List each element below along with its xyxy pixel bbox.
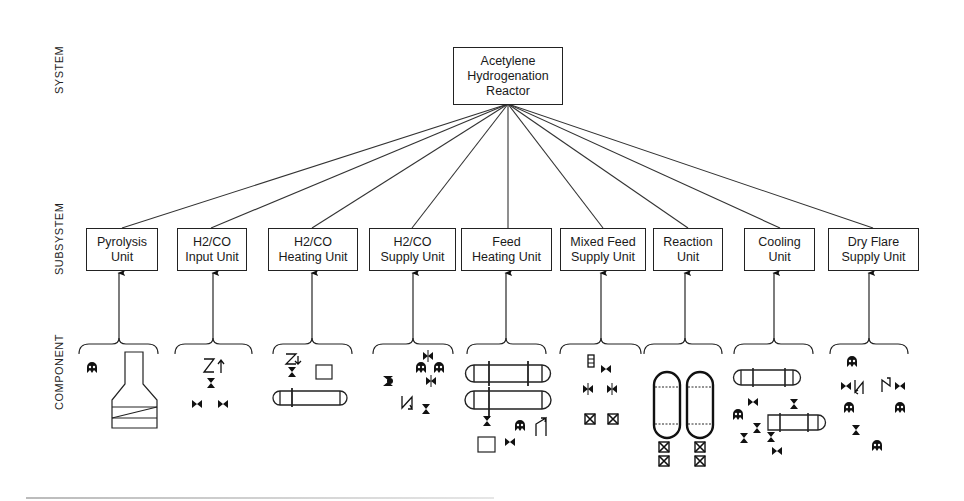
system-box-line3: Reactor (486, 84, 530, 99)
subsystem-box-feed-heating-unit[interactable]: Feed Heating Unit (461, 228, 552, 271)
subsystem-box-reaction-unit[interactable]: Reaction Unit (653, 228, 723, 271)
check-valve-icon (536, 418, 546, 436)
gate-valve-icon (748, 398, 758, 406)
control-valve-icon (423, 350, 433, 362)
subsystem-label-line2: Supply Unit (842, 250, 906, 265)
gate-valve-icon (767, 432, 775, 442)
subsystem-label-line1: H2/CO (193, 235, 231, 250)
control-valve-icon (607, 383, 617, 395)
gate-valve-icon (207, 378, 215, 388)
subsystem-label-line1: H2/CO (393, 235, 431, 250)
component-group-pyrolysis (87, 352, 157, 428)
pump-icon (434, 362, 444, 373)
footer-divider (26, 497, 494, 499)
component-group-cooling (733, 368, 826, 455)
instrument-box-icon (478, 437, 495, 452)
pump-icon (895, 402, 905, 413)
component-braces (79, 338, 908, 354)
subsystem-box-h2co-heating-unit[interactable]: H2/CO Heating Unit (268, 228, 358, 271)
gate-valve-icon (790, 399, 798, 409)
subsystem-box-h2co-input-unit[interactable]: H2/CO Input Unit (177, 228, 247, 271)
control-valve-icon (426, 375, 436, 387)
component-arrows (119, 273, 869, 340)
gate-valve-icon (841, 382, 851, 390)
subsystem-box-h2co-supply-unit[interactable]: H2/CO Supply Unit (369, 228, 456, 271)
component-group-mixed-feed (583, 355, 618, 424)
gate-valve-icon (483, 416, 491, 426)
system-box-line2: Hydrogenation (467, 69, 548, 84)
subsystem-label-line2: Unit (768, 250, 790, 265)
relief-valve-icon (659, 442, 669, 452)
component-group-feed-heating (465, 361, 551, 452)
check-valve-icon (855, 380, 863, 394)
gate-valve-icon (422, 404, 430, 414)
pump-icon (872, 440, 882, 451)
pump-icon (847, 356, 857, 367)
component-group-h2co-heating (273, 354, 347, 407)
pump-icon (733, 409, 743, 420)
gate-valve-icon (601, 365, 611, 373)
check-valve-icon (286, 354, 301, 364)
heat-exchanger-icon (273, 388, 347, 407)
subsystem-label-line2: Heating Unit (279, 250, 348, 265)
system-box-line1: Acetylene (481, 54, 536, 69)
pump-icon (515, 420, 525, 431)
subsystem-box-dry-flare-supply-unit[interactable]: Dry Flare Supply Unit (828, 228, 919, 271)
heat-exchanger-icon (768, 413, 826, 432)
subsystem-label-line1: Feed (492, 235, 521, 250)
flow-meter-icon (588, 355, 594, 367)
component-group-reaction (654, 372, 713, 466)
pump-icon (416, 362, 426, 373)
relief-valve-icon (659, 456, 669, 466)
system-box-acetylene-hydrogenation-reactor[interactable]: Acetylene Hydrogenation Reactor (453, 47, 563, 105)
subsystem-label-line2: Unit (677, 250, 699, 265)
subsystem-label-line1: Mixed Feed (570, 235, 635, 250)
component-group-h2co-supply (383, 350, 444, 414)
reactor-vessel-icon (687, 372, 713, 438)
subsystem-label-line2: Heating Unit (472, 250, 541, 265)
check-valve-icon (882, 378, 890, 392)
pump-icon (87, 362, 97, 373)
furnace-icon (112, 352, 157, 428)
system-connectors (122, 104, 873, 228)
relief-valve-icon (608, 414, 618, 424)
subsystem-label-line2: Supply Unit (381, 250, 445, 265)
subsystem-label-line1: H2/CO (294, 235, 332, 250)
gate-valve-icon (192, 400, 202, 408)
subsystem-label-line1: Cooling (758, 235, 800, 250)
gate-valve-icon (772, 447, 782, 455)
relief-valve-icon (585, 414, 595, 424)
gate-valve-icon (740, 433, 748, 443)
subsystem-label-line1: Pyrolysis (97, 235, 147, 250)
subsystem-box-pyrolysis-unit[interactable]: Pyrolysis Unit (86, 228, 158, 271)
subsystem-box-mixed-feed-supply-unit[interactable]: Mixed Feed Supply Unit (560, 228, 646, 271)
subsystem-label-line1: Reaction (663, 235, 712, 250)
gate-valve-icon (753, 423, 761, 433)
subsystem-label-line2: Input Unit (185, 250, 239, 265)
pump-icon (844, 402, 854, 413)
reactor-vessel-icon (654, 372, 680, 438)
check-valve-icon (402, 396, 412, 409)
instrument-box-icon (316, 365, 332, 379)
gate-valve-icon (288, 367, 296, 377)
heat-exchanger-icon (465, 387, 551, 418)
relief-valve-icon (695, 442, 705, 452)
subsystem-label-line2: Supply Unit (571, 250, 635, 265)
subsystem-label-line1: Dry Flare (848, 235, 899, 250)
heat-exchanger-icon (734, 368, 801, 387)
gate-valve-icon (852, 425, 860, 435)
check-valve-icon (204, 359, 224, 373)
component-group-h2co-input (192, 359, 228, 408)
component-group-dry-flare (841, 356, 905, 451)
heat-exchanger-icon (466, 361, 551, 386)
control-valve-icon (583, 383, 593, 395)
subsystem-box-cooling-unit[interactable]: Cooling Unit (744, 228, 815, 271)
relief-valve-icon (695, 456, 705, 466)
ball-valve-icon (383, 376, 393, 386)
gate-valve-icon (895, 382, 905, 390)
subsystem-label-line2: Unit (111, 250, 133, 265)
gate-valve-icon (505, 438, 515, 446)
gate-valve-icon (218, 400, 228, 408)
